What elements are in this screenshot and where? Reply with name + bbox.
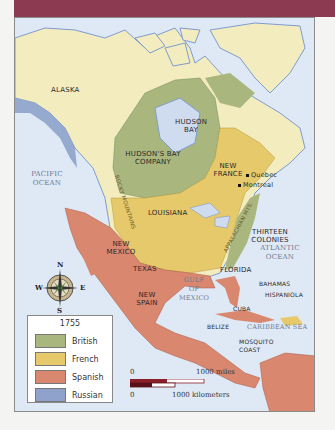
- legend-label-french: French: [72, 355, 99, 364]
- legend-swatch-russian: [35, 388, 66, 402]
- label-louisiana: LOUISIANA: [148, 209, 187, 217]
- label-hudson-bay: HUDSON BAY: [175, 118, 207, 134]
- scale-miles-label: 1000 miles: [196, 368, 235, 376]
- map-legend: 1755 British French Spanish Russian: [27, 315, 113, 403]
- label-gulf-of-mexico: GULF OF MEXICO: [179, 276, 209, 303]
- label-texas: TEXAS: [133, 265, 157, 273]
- label-belize: BELIZE: [207, 323, 229, 331]
- compass-icon: [35, 260, 87, 316]
- territory-spanish-florida: [215, 276, 240, 308]
- territory-spanish-south-america: [260, 353, 315, 412]
- title-bar: [14, 0, 335, 17]
- scale-miles-zero: 0: [130, 368, 134, 376]
- legend-item-french: French: [35, 351, 99, 367]
- label-thirteen-colonies: THIRTEEN COLONIES: [245, 228, 295, 244]
- label-new-mexico: NEW MEXICO: [101, 240, 141, 256]
- map-frame: ALASKA HUDSON BAY HUDSON'S BAY COMPANY N…: [14, 17, 315, 412]
- legend-item-spanish: Spanish: [35, 369, 104, 385]
- label-cuba: CUBA: [233, 305, 251, 313]
- scale-bar: 0 1000 miles 0 1000 kilometers: [116, 368, 236, 404]
- label-mosquito-coast: MOSQUITO COAST: [239, 338, 281, 354]
- city-montreal-label: Montreal: [243, 181, 273, 189]
- legend-item-russian: Russian: [35, 387, 103, 403]
- label-pacific-ocean: PACIFIC OCEAN: [29, 170, 65, 188]
- label-hudsons-bay-company: HUDSON'S BAY COMPANY: [117, 150, 189, 166]
- legend-swatch-french: [35, 352, 66, 366]
- label-caribbean-sea: CARIBBEAN SEA: [247, 323, 307, 332]
- legend-year: 1755: [28, 319, 112, 328]
- legend-label-british: British: [72, 337, 98, 346]
- legend-swatch-spanish: [35, 370, 66, 384]
- city-quebec-label: Quebec: [251, 171, 277, 179]
- scale-km-zero: 0: [130, 391, 134, 399]
- city-montreal: Montreal: [238, 181, 273, 189]
- legend-swatch-british: [35, 334, 66, 348]
- label-new-france: NEW FRANCE: [213, 162, 243, 178]
- city-quebec: Quebec: [246, 171, 277, 179]
- label-bahamas: BAHAMAS: [259, 280, 290, 288]
- legend-item-british: British: [35, 333, 98, 349]
- label-new-spain: NEW SPAIN: [130, 291, 164, 307]
- city-dot-icon: [238, 184, 241, 187]
- label-atlantic-ocean: ATLANTIC OCEAN: [260, 244, 300, 262]
- compass-rose: N W E S: [35, 260, 87, 316]
- city-dot-icon: [246, 174, 249, 177]
- scale-bar-graphic: [130, 379, 250, 389]
- label-hispaniola: HISPANIOLA: [265, 291, 303, 299]
- label-florida: FLORIDA: [220, 266, 252, 274]
- scale-km-label: 1000 kilometers: [172, 391, 230, 399]
- legend-label-spanish: Spanish: [72, 373, 104, 382]
- legend-label-russian: Russian: [72, 391, 103, 400]
- label-alaska: ALASKA: [51, 86, 80, 94]
